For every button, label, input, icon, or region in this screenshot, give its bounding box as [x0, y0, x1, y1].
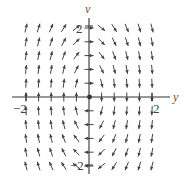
arrowhead-icon: [37, 51, 40, 55]
arrowhead-icon: [85, 109, 89, 112]
arrowhead-icon: [151, 42, 154, 46]
arrowhead-icon: [37, 106, 40, 110]
arrowhead-icon: [150, 153, 153, 157]
arrowhead-icon: [90, 40, 94, 43]
arrowhead-icon: [100, 98, 103, 102]
arrowhead-icon: [85, 137, 89, 140]
arrowhead-icon: [62, 93, 65, 97]
arrowhead-icon: [125, 98, 128, 102]
v-tick-label-pos2: 2: [76, 21, 83, 36]
arrowhead-icon: [138, 56, 141, 60]
arrowhead-icon: [85, 123, 89, 126]
arrowhead-icon: [90, 68, 94, 71]
arrowhead-icon: [150, 84, 153, 88]
x-tick-label-neg2: −2: [13, 101, 27, 116]
arrowhead-icon: [25, 37, 28, 41]
arrowhead-icon: [49, 106, 52, 110]
arrowhead-icon: [113, 98, 116, 102]
arrowhead-icon: [37, 162, 40, 166]
arrowhead-icon: [125, 112, 128, 116]
arrowhead-icon: [125, 42, 128, 46]
arrowhead-icon: [50, 93, 53, 97]
origin-equilibrium-dot: [87, 95, 92, 100]
arrowhead-icon: [90, 82, 94, 85]
x-axis-label: y: [172, 90, 179, 104]
v-axis-label: v: [85, 2, 91, 16]
x-tick-label-pos2: 2: [153, 101, 160, 116]
arrowhead-icon: [138, 28, 141, 32]
arrowhead-icon: [90, 54, 94, 57]
direction-field-plot: −2 2 2 −2 y v: [0, 0, 189, 179]
arrowhead-icon: [125, 153, 128, 157]
arrowhead-icon: [138, 166, 141, 170]
v-tick-label-neg2: −2: [70, 158, 84, 173]
arrowhead-icon: [37, 134, 40, 138]
arrowhead-icon: [24, 148, 27, 152]
arrowhead-icon: [75, 93, 78, 97]
arrowhead-icon: [125, 84, 128, 88]
arrowhead-icon: [138, 112, 141, 116]
arrowhead-icon: [37, 79, 40, 83]
arrowhead-icon: [49, 148, 52, 152]
arrowhead-icon: [85, 151, 89, 154]
arrowhead-icon: [138, 139, 141, 143]
arrowhead-icon: [50, 38, 53, 42]
arrowhead-icon: [37, 93, 40, 97]
arrowhead-icon: [24, 79, 27, 83]
arrowhead-icon: [50, 79, 53, 83]
arrowhead-icon: [37, 24, 40, 28]
arrowhead-icon: [90, 26, 94, 29]
arrowhead-icon: [138, 84, 141, 88]
arrowhead-icon: [138, 98, 141, 102]
